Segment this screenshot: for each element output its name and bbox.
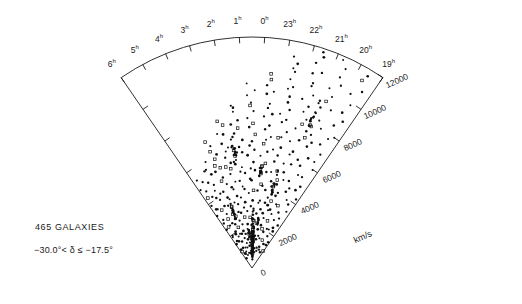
galaxy-point — [230, 139, 232, 141]
galaxy-point — [272, 149, 274, 151]
galaxy-point — [262, 217, 264, 219]
galaxy-point — [306, 145, 309, 148]
galaxy-point — [295, 127, 297, 129]
galaxy-point — [266, 84, 268, 86]
galaxy-point — [259, 170, 262, 173]
galaxy-point — [252, 161, 255, 164]
galaxy-point — [235, 243, 238, 246]
galaxy-point — [330, 109, 332, 111]
galaxy-point — [262, 243, 265, 246]
galaxy-point — [275, 203, 277, 205]
galaxy-point — [289, 153, 291, 155]
ra-tick-label-23h: 23h — [283, 18, 296, 29]
galaxy-point — [281, 121, 283, 123]
galaxy-point — [317, 102, 319, 104]
galaxy-point — [246, 223, 249, 226]
galaxy-point — [271, 192, 273, 194]
galaxy-point — [266, 235, 268, 237]
galaxy-point — [273, 219, 275, 221]
galaxy-point — [322, 56, 325, 59]
galaxy-point — [215, 208, 218, 211]
left-axis-tick — [187, 169, 192, 172]
galaxy-point — [233, 202, 235, 204]
galaxy-point — [312, 82, 314, 84]
galaxy-point — [258, 245, 261, 248]
galaxy-point — [210, 173, 213, 176]
galaxy-point — [239, 180, 241, 182]
galaxy-point — [235, 159, 237, 161]
galaxy-point — [238, 235, 240, 237]
galaxy-point — [243, 207, 245, 209]
galaxy-point — [288, 187, 290, 189]
galaxy-point — [256, 189, 258, 191]
galaxy-point — [230, 186, 233, 189]
galaxy-point — [232, 147, 234, 149]
galaxy-point — [265, 139, 267, 141]
galaxy-point — [264, 128, 266, 130]
galaxy-point — [267, 204, 269, 206]
galaxy-point — [216, 133, 218, 135]
ra-tick-label-3h: 3h — [181, 24, 189, 35]
galaxy-point — [251, 140, 254, 143]
galaxy-point — [305, 130, 308, 133]
galaxy-point — [246, 154, 249, 157]
galaxy-point — [303, 111, 305, 113]
galaxy-point — [219, 199, 221, 201]
galaxy-point — [234, 181, 236, 183]
galaxy-point — [215, 197, 218, 200]
galaxy-point — [241, 223, 243, 225]
galaxy-point — [268, 124, 271, 127]
galaxy-point — [319, 143, 321, 145]
galaxy-point — [339, 76, 341, 78]
galaxy-point — [230, 105, 232, 107]
galaxy-point — [290, 163, 292, 165]
galaxy-point — [250, 205, 252, 207]
galaxy-point — [257, 221, 259, 223]
galaxy-point — [288, 109, 290, 111]
galaxy-point — [270, 180, 273, 183]
galaxy-point — [214, 170, 217, 173]
galaxy-point — [220, 142, 223, 145]
galaxy-point — [248, 252, 250, 254]
galaxy-point — [292, 86, 294, 88]
ra-tick-label-21h: 21h — [335, 33, 348, 44]
galaxy-point — [262, 231, 265, 234]
galaxy-point — [229, 123, 232, 126]
galaxy-point — [248, 144, 251, 147]
left-axis-tick — [143, 106, 148, 109]
galaxy-point — [319, 100, 321, 102]
galaxy-point — [321, 72, 323, 74]
galaxy-point — [226, 196, 229, 199]
galaxy-point — [227, 218, 230, 221]
galaxy-point — [222, 219, 224, 221]
galaxy-point — [231, 145, 234, 148]
velocity-tick — [378, 74, 383, 77]
galaxy-point — [234, 233, 237, 236]
galaxy-point — [260, 224, 263, 227]
galaxy-point — [227, 147, 229, 149]
galaxy-point — [274, 195, 277, 198]
galaxy-point — [311, 72, 313, 74]
ra-tick — [336, 54, 338, 60]
galaxy-point — [257, 202, 259, 204]
galaxy-point — [222, 176, 224, 178]
ra-tick — [289, 40, 290, 46]
ra-tick-label-20h: 20h — [359, 44, 372, 55]
galaxy-point — [244, 237, 246, 239]
galaxy-point — [248, 229, 250, 231]
galaxy-point — [248, 232, 250, 234]
galaxy-point — [226, 229, 228, 231]
galaxy-point — [229, 173, 231, 175]
galaxy-point — [296, 62, 299, 65]
galaxy-point — [249, 104, 252, 107]
ra-tick-label-2h: 2h — [207, 18, 215, 29]
galaxy-point — [207, 197, 210, 200]
galaxy-point — [342, 59, 344, 61]
galaxy-point — [252, 189, 255, 192]
galaxy-point — [267, 241, 270, 244]
galaxy-point — [232, 211, 235, 214]
galaxy-point — [294, 71, 296, 73]
galaxy-point — [270, 200, 273, 203]
galaxy-point — [327, 138, 329, 140]
galaxy-point — [265, 171, 267, 173]
